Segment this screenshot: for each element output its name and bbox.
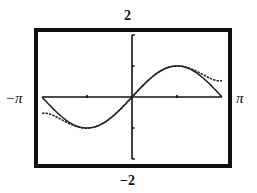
plot-svg [0,0,257,193]
viewing-window-frame [36,30,230,166]
